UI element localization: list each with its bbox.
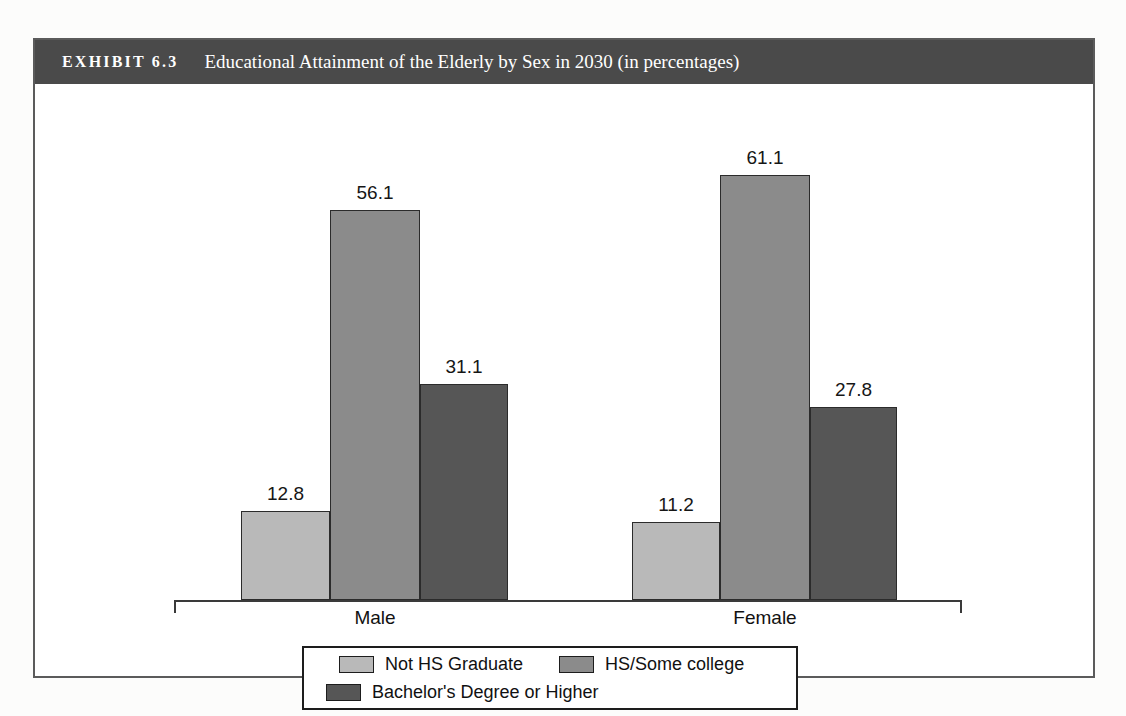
legend-swatch-icon-bachelors-degree-or-higher [326,684,361,701]
legend-item-hs-some-college: HS/Some college [559,654,744,675]
bar-female-bachelors-degree-or-higher [810,407,897,600]
exhibit-frame: EXHIBIT 6.3 Educational Attainment of th… [33,38,1095,678]
bar-female-hs-some-college [720,175,810,600]
chart-plot-area: 12.8 56.1 31.1 11.2 61.1 27.8 Male Femal… [35,84,1093,676]
exhibit-number-label: EXHIBIT 6.3 [35,53,178,71]
chart-legend: Not HS Graduate HS/Some college Bachelor… [302,646,798,710]
bar-value-female-not-hs-graduate: 11.2 [632,494,720,516]
x-axis-tick-left [174,600,176,613]
legend-label-hs-some-college: HS/Some college [594,654,744,675]
legend-label-not-hs-graduate: Not HS Graduate [374,654,523,675]
x-axis-tick-right [960,600,962,613]
bar-male-hs-some-college [330,210,420,600]
legend-swatch-icon-not-hs-graduate [339,656,374,673]
x-axis-line [174,600,962,602]
bar-value-male-hs-some-college: 56.1 [330,182,420,204]
x-axis-label-female: Female [671,607,859,629]
exhibit-header: EXHIBIT 6.3 Educational Attainment of th… [35,40,1093,84]
legend-swatch-icon-hs-some-college [559,656,594,673]
bar-value-female-bachelors-degree-or-higher: 27.8 [810,379,897,401]
bar-value-male-bachelors-degree-or-higher: 31.1 [420,356,508,378]
legend-row: Not HS Graduate HS/Some college [304,651,796,677]
bar-value-female-hs-some-college: 61.1 [720,147,810,169]
legend-item-not-hs-graduate: Not HS Graduate [339,654,523,675]
bar-male-bachelors-degree-or-higher [420,384,508,600]
x-axis-label-male: Male [281,607,469,629]
legend-label-bachelors-degree-or-higher: Bachelor's Degree or Higher [361,682,599,703]
legend-item-bachelors-degree-or-higher: Bachelor's Degree or Higher [326,682,599,703]
bar-value-male-not-hs-graduate: 12.8 [241,483,330,505]
legend-row: Bachelor's Degree or Higher [304,679,796,705]
page-background: EXHIBIT 6.3 Educational Attainment of th… [0,0,1126,716]
exhibit-title: Educational Attainment of the Elderly by… [178,51,739,73]
bar-female-not-hs-graduate [632,522,720,600]
bar-male-not-hs-graduate [241,511,330,600]
